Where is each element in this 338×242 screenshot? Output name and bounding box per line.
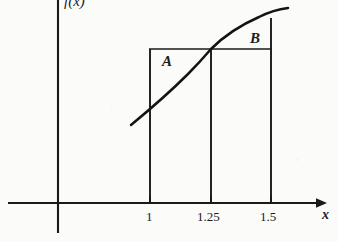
- region-b-label: B: [250, 31, 260, 46]
- x-axis-label: x: [322, 208, 329, 222]
- figure-canvas: [0, 0, 338, 242]
- math-figure: f(x) x A B 1 1.25 1.5: [0, 0, 338, 242]
- x-tick-label-1: 1: [146, 210, 153, 223]
- x-tick-label-1-5: 1.5: [260, 210, 276, 223]
- function-curve: [131, 8, 288, 125]
- region-a-label: A: [162, 54, 172, 69]
- x-tick-label-1-25: 1.25: [197, 210, 220, 223]
- y-axis-label: f(x): [64, 0, 85, 9]
